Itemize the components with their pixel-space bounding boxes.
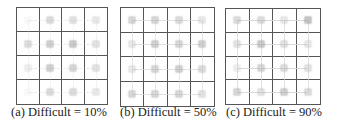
node-marker — [199, 41, 206, 48]
node-marker — [92, 40, 99, 47]
node-marker — [129, 90, 136, 97]
grid-c — [225, 8, 321, 105]
grid-cell — [85, 32, 108, 56]
node-marker — [199, 90, 206, 97]
node-marker — [234, 89, 241, 96]
node-marker — [24, 89, 31, 96]
node-marker — [129, 16, 136, 23]
node-marker — [281, 17, 288, 24]
node-marker — [129, 41, 136, 48]
grid-cell — [144, 8, 167, 33]
grid-cell — [17, 80, 40, 104]
grid-cell — [250, 9, 274, 33]
grid-cell — [85, 80, 108, 104]
grid-cell — [297, 57, 321, 81]
grid-cell — [40, 8, 63, 32]
grid-cell — [85, 8, 108, 32]
grid-cell — [62, 8, 85, 32]
node-marker — [69, 16, 76, 23]
node-marker — [305, 64, 312, 71]
grid-cell — [17, 32, 40, 56]
grid-cell — [191, 8, 214, 33]
node-marker — [257, 64, 264, 71]
grid-b — [120, 7, 215, 107]
grid-cell — [121, 82, 144, 107]
grid-cell — [250, 33, 274, 57]
grid-a — [16, 7, 108, 105]
grid-cell — [17, 8, 40, 32]
grid-cell — [168, 33, 191, 58]
node-marker — [69, 40, 76, 47]
node-marker — [305, 17, 312, 24]
grid-cell — [144, 33, 167, 58]
node-marker — [281, 41, 288, 48]
grid-cell — [226, 33, 250, 57]
grid-cell — [191, 82, 214, 107]
node-marker — [92, 89, 99, 96]
grid-cell — [226, 80, 250, 104]
grid-cell — [85, 56, 108, 80]
grid-cell — [168, 82, 191, 107]
grid-cell — [62, 32, 85, 56]
node-marker — [175, 16, 182, 23]
grid-cell — [250, 80, 274, 104]
node-marker — [92, 64, 99, 71]
grid-cell — [226, 57, 250, 81]
grid-cell — [226, 9, 250, 33]
grid-cell — [121, 8, 144, 33]
node-marker — [152, 16, 159, 23]
node-marker — [24, 64, 31, 71]
node-marker — [175, 41, 182, 48]
node-marker — [257, 17, 264, 24]
grid-cell — [297, 9, 321, 33]
grid-cell — [297, 33, 321, 57]
node-marker — [281, 89, 288, 96]
grid-cell — [250, 57, 274, 81]
grid-cell — [144, 82, 167, 107]
node-marker — [92, 16, 99, 23]
node-marker — [234, 17, 241, 24]
node-marker — [24, 40, 31, 47]
node-marker — [234, 64, 241, 71]
node-marker — [257, 41, 264, 48]
grid-cell — [273, 80, 297, 104]
node-marker — [47, 16, 54, 23]
caption-a: (a) Difficult = 10% — [11, 105, 107, 120]
node-marker — [152, 41, 159, 48]
node-marker — [234, 41, 241, 48]
grid-cell — [40, 56, 63, 80]
node-marker — [69, 64, 76, 71]
node-marker — [69, 89, 76, 96]
node-marker — [199, 65, 206, 72]
node-marker — [47, 89, 54, 96]
grid-cell — [40, 32, 63, 56]
caption-c: (c) Difficult = 90% — [226, 105, 322, 120]
caption-b: (b) Difficult = 50% — [120, 105, 217, 120]
node-marker — [175, 90, 182, 97]
grid-cell — [62, 56, 85, 80]
grid-cell — [273, 57, 297, 81]
node-marker — [24, 16, 31, 23]
node-marker — [47, 64, 54, 71]
grid-cell — [168, 57, 191, 82]
node-marker — [175, 65, 182, 72]
node-marker — [257, 89, 264, 96]
node-marker — [305, 41, 312, 48]
grid-cell — [121, 57, 144, 82]
grid-cell — [273, 33, 297, 57]
grid-cell — [121, 33, 144, 58]
node-marker — [281, 64, 288, 71]
grid-cell — [191, 57, 214, 82]
grid-cell — [62, 80, 85, 104]
grid-cell — [168, 8, 191, 33]
grid-cell — [144, 57, 167, 82]
node-marker — [152, 90, 159, 97]
grid-cell — [191, 33, 214, 58]
grid-cell — [40, 80, 63, 104]
node-marker — [199, 16, 206, 23]
node-marker — [152, 65, 159, 72]
node-marker — [129, 65, 136, 72]
grid-cell — [273, 9, 297, 33]
node-marker — [305, 89, 312, 96]
grid-cell — [297, 80, 321, 104]
